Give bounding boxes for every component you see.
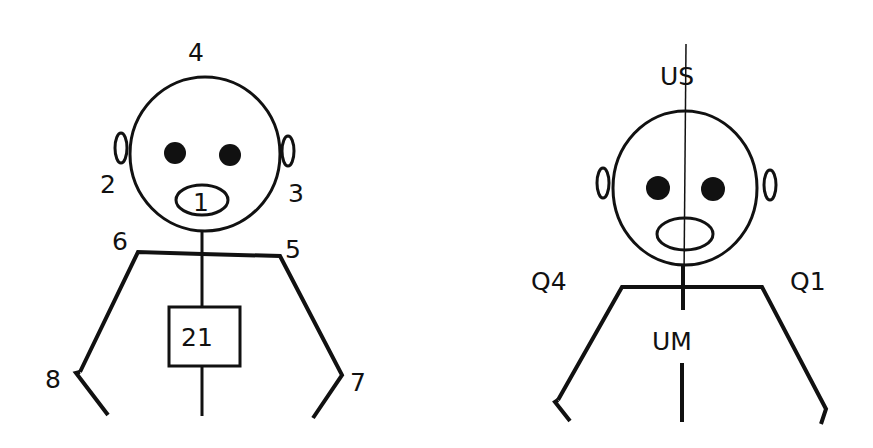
label-3: 3 (288, 179, 304, 208)
label-1: 1 (193, 188, 209, 217)
label-6: 6 (112, 227, 128, 256)
label-2: 2 (100, 170, 116, 199)
right-ear (282, 136, 294, 166)
right-eye (701, 177, 725, 201)
label-4: 4 (188, 38, 204, 67)
left-hand (555, 400, 570, 421)
left-figure: 4 1 2 3 6 5 21 8 7 (45, 38, 366, 418)
label-21: 21 (181, 323, 213, 352)
label-5: 5 (285, 235, 301, 264)
label-um: UM (652, 327, 692, 356)
shoulders-arms (558, 287, 826, 424)
label-7: 7 (350, 368, 366, 397)
diagram-canvas: 4 1 2 3 6 5 21 8 7 US Q4 Q1 (0, 0, 873, 448)
label-8: 8 (45, 365, 61, 394)
left-ear (597, 168, 609, 198)
left-hand (76, 372, 108, 415)
right-ear (764, 170, 776, 200)
left-eye (646, 176, 670, 200)
left-ear (115, 133, 127, 163)
label-q1: Q1 (790, 267, 826, 296)
label-us: US (660, 62, 694, 91)
right-figure: US Q4 Q1 UM (531, 44, 826, 424)
label-q4: Q4 (531, 267, 567, 296)
left-eye (164, 142, 186, 164)
right-eye (219, 144, 241, 166)
